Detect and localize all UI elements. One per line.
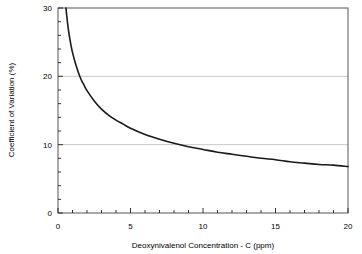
x-tick-label-20: 20 <box>344 222 353 231</box>
y-tick-label-10: 10 <box>43 141 52 150</box>
y-tick-label-0: 0 <box>48 209 53 218</box>
x-tick-label-0: 0 <box>56 222 61 231</box>
chart-background <box>0 0 362 254</box>
x-tick-label-10: 10 <box>199 222 208 231</box>
y-tick-label-20: 20 <box>43 72 52 81</box>
chart-figure: 05101520 0102030 Deoxynivalenol Concentr… <box>0 0 362 254</box>
y-tick-label-30: 30 <box>43 4 52 13</box>
x-tick-label-5: 5 <box>128 222 133 231</box>
y-axis-title: Coefficient of Variation (%) <box>7 62 16 157</box>
coefficient-of-variation-chart: 05101520 0102030 Deoxynivalenol Concentr… <box>0 0 362 254</box>
x-tick-label-15: 15 <box>271 222 280 231</box>
x-axis-title: Deoxynivalenol Concentration - C (ppm) <box>132 241 275 250</box>
